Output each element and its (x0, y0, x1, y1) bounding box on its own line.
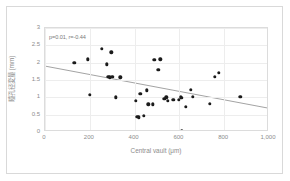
data-point (180, 129, 183, 131)
gridline-vertical (224, 28, 225, 130)
x-axis-tick-label: 200 (84, 134, 94, 140)
y-axis-tick-label: 3 (37, 24, 40, 30)
y-axis-tick-label: 1 (37, 93, 40, 99)
x-axis-tick-label: 400 (129, 134, 139, 140)
x-axis-tick-labels: 02004006008001,000 (44, 134, 268, 144)
y-axis-tick-label: 2 (37, 59, 40, 65)
scatter-plot-figure: 瞳孔径変量 (mm) 00.511.522.53 p=0.01, r=-0.44… (0, 0, 290, 181)
gridline-vertical (90, 28, 91, 130)
gridline-horizontal (45, 115, 267, 116)
x-axis-tick-label: 800 (218, 134, 228, 140)
gridline-horizontal (45, 28, 267, 29)
gridline-horizontal (45, 80, 267, 81)
gridline-vertical (45, 28, 46, 130)
y-axis-tick-label: 0.5 (32, 111, 40, 117)
y-axis-tick-labels: 00.511.522.53 (20, 27, 40, 131)
x-axis-tick-label: 600 (173, 134, 183, 140)
gridline-horizontal (45, 63, 267, 64)
y-axis-tick-label: 1.5 (32, 76, 40, 82)
y-axis-title: 瞳孔径変量 (mm) (7, 56, 16, 103)
y-axis-tick-label: 2.5 (32, 41, 40, 47)
y-axis-tick-label: 0 (37, 128, 40, 134)
gridline-vertical (179, 28, 180, 130)
x-axis-title: Central vault (μm) (44, 147, 268, 154)
x-axis-tick-label: 0 (42, 134, 45, 140)
x-axis-tick-label: 1,000 (260, 134, 275, 140)
gridline-horizontal (45, 97, 267, 98)
statistics-annotation: p=0.01, r=-0.44 (49, 34, 86, 40)
plot-area: p=0.01, r=-0.44 (44, 27, 268, 131)
gridline-horizontal (45, 45, 267, 46)
